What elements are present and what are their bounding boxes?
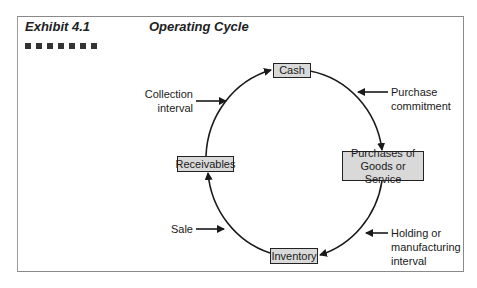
annotation-holding-interval: Holding or manufacturing interval <box>391 226 461 268</box>
node-inventory-label: Inventory <box>271 250 316 263</box>
arc-cash-to-purchases <box>310 71 382 150</box>
sale-label: Sale <box>160 222 193 236</box>
collection-line2: interval <box>130 101 193 115</box>
arc-receivables-to-cash <box>206 70 271 156</box>
holding-line1: Holding or <box>391 226 461 240</box>
purchase-line2: commitment <box>391 99 451 113</box>
node-purchases: Purchases of Goods or Service <box>342 151 424 181</box>
node-receivables-label: Receivables <box>176 158 236 171</box>
node-receivables: Receivables <box>177 156 234 172</box>
holding-line3: interval <box>391 254 461 268</box>
arc-purchases-to-inventory <box>320 181 382 255</box>
holding-line2: manufacturing <box>391 240 461 254</box>
collection-line1: Collection <box>130 87 193 101</box>
node-cash-label: Cash <box>279 64 305 77</box>
purchase-line1: Purchase <box>391 85 451 99</box>
annotation-purchase-commitment: Purchase commitment <box>391 85 451 113</box>
node-purchases-line2: Goods or Service <box>343 160 423 186</box>
node-purchases-line1: Purchases of <box>351 147 415 160</box>
annotation-collection-interval: Collection interval <box>130 87 193 115</box>
node-cash: Cash <box>273 63 311 78</box>
node-inventory: Inventory <box>270 248 318 264</box>
arc-inventory-to-receivables <box>208 173 270 253</box>
annotation-sale: Sale <box>160 222 193 236</box>
